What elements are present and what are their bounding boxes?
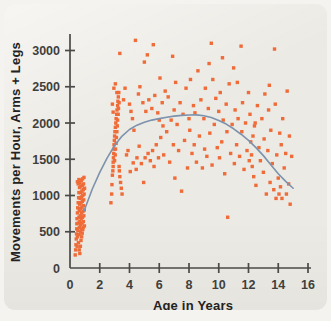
data-point [268, 84, 271, 87]
data-point [280, 197, 283, 200]
data-point [203, 147, 206, 150]
data-point [288, 203, 291, 206]
data-point [274, 102, 277, 105]
data-point [207, 107, 210, 110]
data-point [278, 131, 281, 134]
data-point [78, 252, 81, 255]
x-tick-label: 16 [301, 278, 315, 292]
data-point [195, 160, 198, 163]
data-point [129, 170, 132, 173]
data-point [187, 117, 190, 120]
data-point [110, 183, 113, 186]
data-point [80, 235, 83, 238]
data-point [205, 155, 208, 158]
data-point [81, 232, 84, 235]
data-point [233, 108, 236, 111]
data-point [118, 52, 121, 55]
data-point [77, 178, 80, 181]
data-point [232, 66, 235, 69]
data-point [134, 168, 137, 171]
data-point [83, 224, 86, 227]
data-point [114, 82, 117, 85]
data-point [115, 136, 118, 139]
data-point [132, 161, 135, 164]
axis-labels-layer: 0500100015002000250030000246810121416Age… [8, 42, 315, 310]
data-point [225, 130, 228, 133]
data-point [248, 159, 251, 162]
data-point [216, 146, 219, 149]
data-point [253, 124, 256, 127]
data-point [220, 140, 223, 143]
data-point [236, 117, 239, 120]
data-point [165, 130, 168, 133]
data-point [114, 147, 117, 150]
data-point [224, 102, 227, 105]
data-point [156, 111, 159, 114]
data-point [111, 169, 114, 172]
data-point [117, 101, 120, 104]
data-point [168, 160, 171, 163]
data-point [280, 143, 283, 146]
data-point [250, 153, 253, 156]
data-point [269, 129, 272, 132]
data-point [226, 216, 229, 219]
data-point [128, 102, 131, 105]
data-point [159, 136, 162, 139]
data-point [74, 253, 77, 256]
data-point [217, 110, 220, 113]
x-tick-label: 12 [242, 278, 256, 292]
data-point [147, 98, 150, 101]
data-point [162, 153, 165, 156]
data-point [259, 159, 262, 162]
data-point [247, 91, 250, 94]
data-point [210, 42, 213, 45]
data-point [123, 87, 126, 90]
data-point [172, 143, 175, 146]
data-point [111, 165, 114, 168]
data-points-layer [74, 39, 294, 257]
data-point [151, 149, 154, 152]
data-point [114, 153, 117, 156]
data-point [244, 121, 247, 124]
data-point [157, 156, 160, 159]
data-point [272, 188, 275, 191]
data-point [262, 171, 265, 174]
data-point [122, 98, 125, 101]
data-point [192, 104, 195, 107]
data-point [174, 81, 177, 84]
data-point [223, 172, 226, 175]
data-point [120, 187, 123, 190]
data-point [137, 92, 140, 95]
data-point [172, 108, 175, 111]
x-tick-label: 4 [126, 278, 133, 292]
data-point [221, 56, 224, 59]
data-point [178, 101, 181, 104]
data-point [76, 182, 79, 185]
data-point [274, 197, 277, 200]
x-tick-label: 14 [271, 278, 285, 292]
data-point [113, 139, 116, 142]
data-point [288, 134, 291, 137]
data-point [183, 139, 186, 142]
data-point [262, 137, 265, 140]
data-point [202, 117, 205, 120]
data-point [116, 113, 119, 116]
data-point [118, 175, 121, 178]
data-point [129, 110, 132, 113]
data-point [242, 168, 245, 171]
data-point [229, 152, 232, 155]
data-point [116, 124, 119, 127]
data-point [111, 102, 114, 105]
data-point [266, 149, 269, 152]
data-point [279, 185, 282, 188]
data-point [263, 92, 266, 95]
data-point [138, 85, 141, 88]
data-point [111, 110, 114, 113]
y-axis-title: Movements per Hour, Arms + Legs [8, 42, 23, 262]
data-point [112, 87, 115, 90]
data-point [110, 192, 113, 195]
y-tick-label: 500 [39, 225, 60, 239]
data-point [214, 97, 217, 100]
data-point [277, 176, 280, 179]
data-point [155, 143, 158, 146]
